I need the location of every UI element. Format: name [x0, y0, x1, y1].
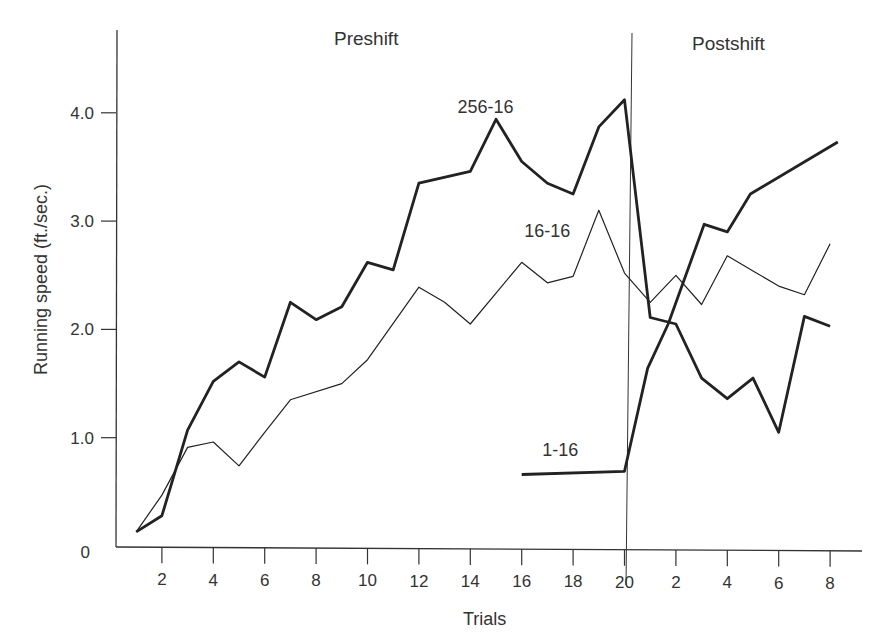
x-tick-label: 2: [157, 570, 166, 589]
x-tick-label: 12: [409, 572, 428, 591]
x-axis-title: Trials: [463, 609, 506, 629]
x-tick-label: 16: [512, 572, 531, 591]
series-label-16-16: 16-16: [524, 221, 570, 241]
y-tick-label: 2.0: [70, 320, 94, 339]
series-label-1-16: 1-16: [542, 440, 578, 460]
series-line-256-16: [136, 100, 830, 532]
x-tick-label: 10: [358, 571, 377, 590]
x-tick-label: 6: [774, 574, 783, 593]
x-tick-label: 2: [671, 573, 680, 592]
preshift-label: Preshift: [334, 28, 399, 49]
y-tick-label: 1.0: [70, 429, 94, 448]
y-tick-label: 0: [81, 543, 90, 562]
running-speed-line-chart: 01.02.03.04.0 24681012141618202468 256-1…: [0, 0, 880, 642]
x-tick-label: 4: [723, 573, 732, 592]
x-tick-label: 6: [260, 571, 269, 590]
y-axis-title: Running speed (ft./sec.): [31, 184, 51, 375]
y-tick-label: 4.0: [70, 104, 94, 123]
x-tick-label: 20: [615, 573, 634, 592]
series-lines: [136, 100, 838, 532]
x-tick-label: 14: [461, 572, 480, 591]
x-axis: [116, 547, 862, 551]
series-label-256-16: 256-16: [457, 97, 513, 117]
postshift-label: Postshift: [692, 33, 766, 54]
y-ticks: 01.02.03.04.0: [70, 104, 116, 562]
x-ticks: 24681012141618202468: [157, 547, 835, 593]
y-tick-label: 3.0: [70, 212, 94, 231]
x-tick-label: 4: [209, 571, 218, 590]
x-tick-label: 8: [825, 574, 834, 593]
x-tick-label: 18: [564, 572, 583, 591]
series-line-16-16: [136, 210, 830, 532]
x-tick-label: 8: [311, 571, 320, 590]
y-axis: [116, 30, 117, 547]
series-labels: 256-1616-161-16: [457, 97, 578, 460]
